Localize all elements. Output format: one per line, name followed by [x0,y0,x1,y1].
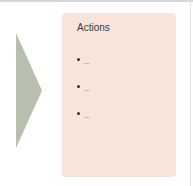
list-item-label: ... [84,58,90,65]
list-item: ... [77,111,90,120]
bullet-icon [77,112,80,115]
bullet-icon [77,85,80,88]
list-item: ... [77,57,90,66]
frame-border-top [0,0,193,2]
list-item-label: ... [84,112,90,119]
right-arrow-icon [16,33,42,148]
list-item: ... [77,84,90,93]
bullet-icon [77,58,80,61]
list-item-label: ... [84,85,90,92]
frame-border-right [190,0,191,186]
card-title: Actions [77,22,110,33]
actions-card: Actions ... ... ... [62,13,176,177]
